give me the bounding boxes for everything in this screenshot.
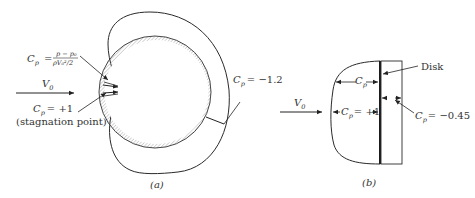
cylinder-body [105,40,209,144]
cp-label-b: Cp [355,75,368,89]
cp-formula-lhs: Cp [27,53,40,67]
disk-label: Disk [421,61,444,72]
rear-pressure-box [381,61,402,164]
caption-a: (a) [150,179,164,190]
stagnation-point-note: (stagnation point) [16,116,107,127]
min-cp-label: Cp= −1.2 [233,74,283,88]
cp-formula-denominator: ρV₀²/2 [52,59,73,67]
panel-a: Cp = p − p₀ ρV₀²/2 V0 Cp= +1 (stagnation… [16,12,283,190]
cp-formula-numerator: p − p₀ [56,50,77,58]
panel-b: V0 Cp Cp= +1 Disk Cp= −0.45 (b) [280,61,470,188]
caption-b: (b) [362,177,376,188]
center-cp-label: Cp= +1 [341,106,380,120]
pressure-distribution-figure: Cp = p − p₀ ρV₀²/2 V0 Cp= +1 (stagnation… [0,0,475,198]
velocity-label-a: V0 [42,78,53,92]
stagnation-cp-label: Cp= +1 [33,103,73,117]
velocity-label-b: V0 [294,97,305,111]
rear-cp-label: Cp= −0.45 [415,110,470,124]
cp-formula-equals: = [44,53,52,64]
